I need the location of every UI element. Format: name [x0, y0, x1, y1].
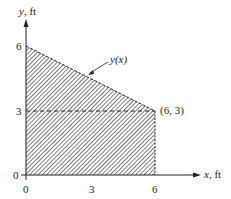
x-tick-0: 0: [23, 183, 29, 195]
x-tick-3: 3: [89, 183, 95, 195]
y-tick-6: 6: [16, 40, 22, 52]
point-label: (6, 3): [160, 104, 184, 117]
y-tick-0: 0: [13, 169, 19, 181]
diagram-canvas: y, ft 6 3 0 0 3 6 x, ft y(x) (6, 3): [0, 0, 231, 199]
x-axis-label: x, ft: [203, 168, 221, 180]
x-axis-arrow-icon: [193, 173, 201, 178]
y-axis-label: y, ft: [18, 5, 36, 17]
leader-arrow-icon: [88, 70, 94, 75]
y-tick-3: 3: [16, 105, 22, 117]
curve-label: y(x): [109, 53, 127, 66]
x-tick-6: 6: [152, 183, 158, 195]
y-axis-arrow-icon: [24, 19, 29, 27]
